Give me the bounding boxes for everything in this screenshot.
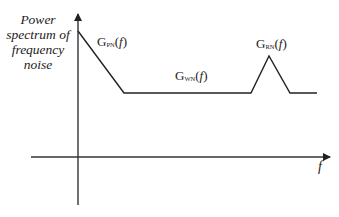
label-subscript: PN — [106, 41, 114, 48]
y-axis-label: Power spectrum of frequency noise — [0, 12, 76, 72]
label-subscript: WN — [184, 75, 195, 82]
x-axis-label: f — [318, 159, 322, 175]
label-main: G — [175, 68, 184, 83]
y-axis-label-line: frequency — [0, 42, 76, 57]
label-paren: ) — [203, 68, 207, 83]
y-axis-label-line: spectrum of — [0, 27, 76, 42]
label-main: G — [256, 36, 265, 51]
y-axis-label-line: Power — [0, 12, 76, 27]
label-paren: ) — [282, 36, 286, 51]
label-g-pn: GPN(f) — [97, 34, 127, 50]
label-paren: ) — [123, 34, 127, 49]
label-g-wn: GWN(f) — [175, 68, 208, 84]
label-main: G — [97, 34, 106, 49]
label-g-rn: GRN(f) — [256, 36, 287, 52]
y-axis-label-line: noise — [0, 57, 76, 72]
